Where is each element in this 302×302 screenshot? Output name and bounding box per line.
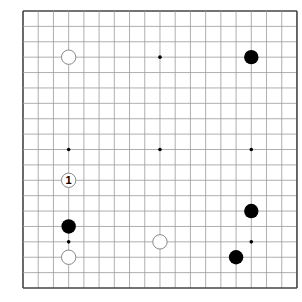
star-point [67,148,71,152]
white-stone: 1 [61,173,75,187]
black-stone [244,50,258,64]
star-point [158,55,162,59]
white-stone [153,235,167,249]
star-point [250,148,254,152]
black-stone [244,204,258,218]
star-point [67,240,71,244]
white-stone [61,50,75,64]
go-board: 1 [0,0,302,302]
black-stone [229,250,243,264]
white-stone [61,250,75,264]
black-stone [61,219,75,233]
move-number-label: 1 [66,174,72,186]
star-point [158,148,162,152]
star-point [250,240,254,244]
